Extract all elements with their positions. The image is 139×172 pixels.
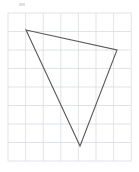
top-speck-artifact bbox=[19, 3, 25, 6]
grid-and-triangle-graphic bbox=[0, 0, 139, 172]
grid-lines bbox=[8, 13, 131, 161]
figure-canvas bbox=[0, 0, 139, 172]
triangle-shape bbox=[26, 30, 117, 146]
speck-mark bbox=[19, 3, 25, 6]
triangle-outline bbox=[26, 30, 117, 146]
